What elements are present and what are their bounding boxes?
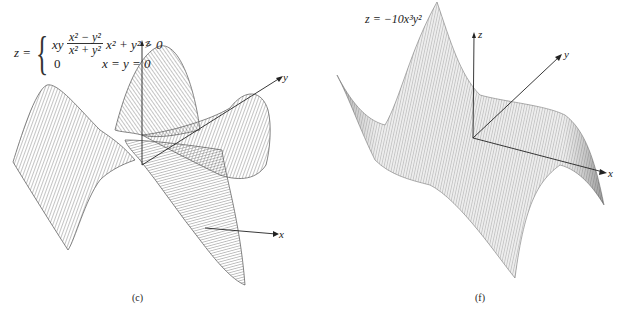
equation-case1-prefix: xy [52,38,64,51]
equation-c: z = { xy x² − y² x² + y² x² + y² > 0 0 x… [14,37,144,67]
caption-c: (c) [132,292,143,303]
fraction-denominator: x² + y² [67,44,103,56]
z-axis-label: z [478,28,482,40]
y-axis-label: y [283,71,288,83]
z-axis-label: z [146,36,150,48]
surface-plot-f [310,0,619,314]
equation-case2-condition: x = y = 0 [102,57,151,70]
equation-lhs: z = [14,46,31,59]
y-axis-label: y [564,48,569,60]
equation-fraction: x² − y² x² + y² [67,31,103,56]
brace-symbol: { [36,31,48,77]
figure-panel-f: z = −10x³y² z y x (f) [310,0,619,314]
figure-panel-c: z = { xy x² − y² x² + y² x² + y² > 0 0 x… [0,0,310,314]
surface-lobe-left [13,85,135,250]
x-axis-label: x [608,167,613,179]
caption-f: (f) [475,292,485,303]
x-axis-label: x [279,228,284,240]
equation-case1-condition: x² + y² > 0 [106,38,162,51]
equation-case2-value: 0 [54,57,61,70]
equation-f: z = −10x³y² [365,13,422,25]
